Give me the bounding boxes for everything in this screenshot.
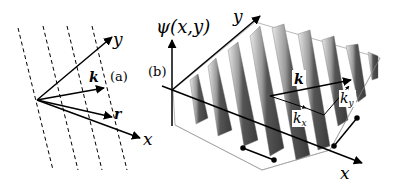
k-vector-arrow — [37, 88, 104, 100]
panel-a: y k (a) r x — [18, 26, 153, 170]
vector-k-label-b: k — [294, 71, 304, 87]
axis-y-label: y — [112, 29, 123, 49]
axis-x-label-b: x — [340, 163, 350, 183]
axis-x-label: x — [143, 129, 153, 149]
panel-a-label: (a) — [110, 69, 128, 84]
x-axis-arrow — [37, 100, 140, 138]
axis-psi-label: ψ(x,y) — [156, 16, 210, 37]
vector-r-label: r — [114, 106, 123, 122]
plane-wave-diagram: y k (a) r x — [0, 0, 396, 183]
wavefront-lines — [18, 26, 127, 170]
vector-k-label: k — [89, 69, 99, 85]
panel-b-label: (b) — [148, 64, 166, 79]
panel-b: ψ(x,y) (b) y k kx ky x — [148, 6, 380, 183]
axis-y-label-b: y — [232, 6, 243, 26]
